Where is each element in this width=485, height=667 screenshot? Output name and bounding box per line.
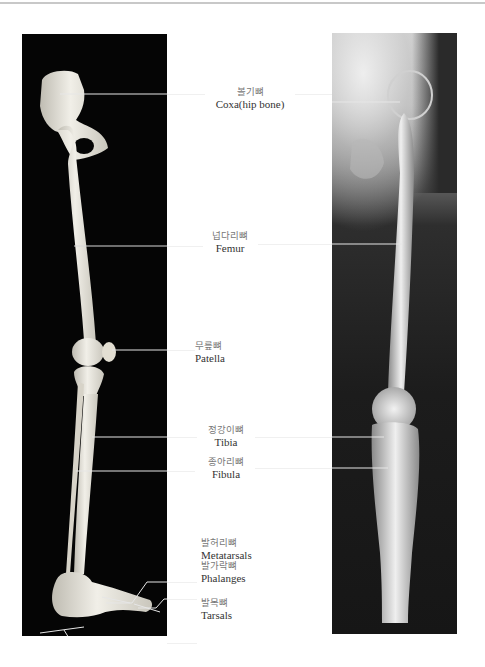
label-coxa: 볼기뼈 Coxa(hip bone) <box>200 86 300 110</box>
label-patella: 무릎뼈 Patella <box>195 340 255 364</box>
label-phalanges-ko: 발가락뼈 <box>201 560 281 572</box>
label-metatarsals: 발허리뼈 Metatarsals <box>201 537 281 561</box>
label-tibia-en: Tibia <box>200 436 252 448</box>
label-phalanges: 발가락뼈 Phalanges <box>201 560 281 584</box>
label-fibula-en: Fibula <box>200 468 252 480</box>
label-tibia: 정강이뼈 Tibia <box>200 424 252 448</box>
label-tarsals: 발목뼈 Tarsals <box>201 597 281 621</box>
label-phalanges-en: Phalanges <box>201 572 281 584</box>
label-patella-en: Patella <box>195 352 255 364</box>
label-tarsals-ko: 발목뼈 <box>201 597 281 609</box>
label-femur-ko: 넙다리뼈 <box>200 230 260 242</box>
label-femur: 넙다리뼈 Femur <box>200 230 260 254</box>
label-fibula: 종아리뼈 Fibula <box>200 456 252 480</box>
label-coxa-en: Coxa(hip bone) <box>200 98 300 110</box>
label-tarsals-en: Tarsals <box>201 609 281 621</box>
label-tibia-ko: 정강이뼈 <box>200 424 252 436</box>
label-coxa-ko: 볼기뼈 <box>200 86 300 98</box>
label-metatarsals-ko: 발허리뼈 <box>201 537 281 549</box>
label-patella-ko: 무릎뼈 <box>195 340 255 352</box>
label-fibula-ko: 종아리뼈 <box>200 456 252 468</box>
label-layer: 볼기뼈 Coxa(hip bone) 넙다리뼈 Femur 무릎뼈 Patell… <box>0 0 485 667</box>
label-femur-en: Femur <box>200 242 260 254</box>
